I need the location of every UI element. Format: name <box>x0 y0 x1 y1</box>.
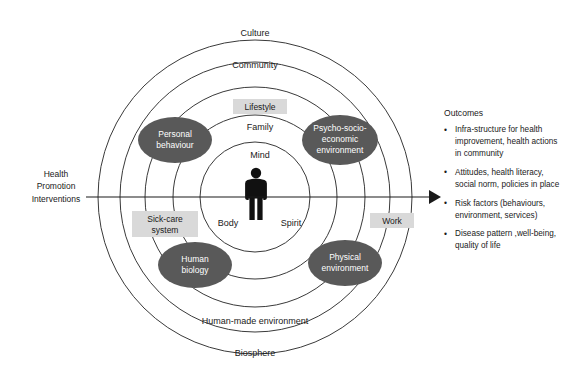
outcome-item: Attitudes, health literacy, social norm,… <box>444 167 560 191</box>
node-physical-environment[interactable]: Physical environment <box>308 240 382 286</box>
human-figure-icon <box>245 168 267 220</box>
ring-label-biosphere: Biosphere <box>235 348 276 358</box>
arrow-head-icon <box>429 190 441 204</box>
personal-behaviour-label-line1: Personal <box>158 129 192 139</box>
intervention-line-2: Promotion <box>10 180 102 192</box>
intervention-line-1: Health <box>10 168 102 180</box>
outcomes-list: Infra-structure for health improvement, … <box>444 124 560 252</box>
human-figure-head <box>251 168 261 178</box>
ring-label-human-made-environment: Human-made environment <box>202 316 309 326</box>
personal-behaviour-label-line2: behaviour <box>156 140 194 150</box>
human-biology-label-line2: biology <box>182 265 210 275</box>
outcomes-panel: Outcomes Infra-structure for health impr… <box>444 108 560 259</box>
human-biology-label-line1: Human <box>181 254 209 264</box>
human-figure-leg-right <box>257 198 262 220</box>
node-personal-behaviour[interactable]: Personal behaviour <box>138 117 212 163</box>
outcomes-title: Outcomes <box>444 108 560 119</box>
lifestyle-box-label: Lifestyle <box>244 102 275 112</box>
physical-environment-label-line2: environment <box>322 263 369 273</box>
psycho-socio-economic-label-line3: environment <box>317 145 364 155</box>
label-body: Body <box>218 218 239 228</box>
outcome-item: Risk factors (behaviours, environment, s… <box>444 198 560 222</box>
sick-care-system-label-line2: system <box>152 225 179 235</box>
outcome-item: Disease pattern ,well-being, quality of … <box>444 228 560 252</box>
box-lifestyle[interactable]: Lifestyle <box>233 99 287 114</box>
node-psycho-socio-economic-environment[interactable]: Psycho-socio- economic environment <box>302 115 378 165</box>
label-spirit: Spirit <box>281 218 302 228</box>
ring-label-community: Community <box>232 60 278 70</box>
box-sick-care-system[interactable]: Sick-care system <box>132 211 198 237</box>
box-work[interactable]: Work <box>370 213 414 228</box>
health-promotion-interventions-label: Health Promotion Interventions <box>10 168 102 205</box>
human-figure-leg-left <box>249 198 254 220</box>
work-box-label: Work <box>382 216 402 226</box>
sick-care-system-label-line1: Sick-care <box>147 214 183 224</box>
outcome-item: Infra-structure for health improvement, … <box>444 124 560 160</box>
intervention-line-3: Interventions <box>10 193 102 205</box>
ring-label-culture: Culture <box>240 28 269 38</box>
physical-environment-label-line1: Physical <box>329 252 361 262</box>
psycho-socio-economic-label-line2: economic <box>322 134 359 144</box>
label-family: Family <box>247 122 274 132</box>
label-mind: Mind <box>250 150 270 160</box>
psycho-socio-economic-label-line1: Psycho-socio- <box>313 123 367 133</box>
diagram-page: Culture Community Human-made environment… <box>0 0 564 379</box>
node-human-biology[interactable]: Human biology <box>158 242 232 288</box>
